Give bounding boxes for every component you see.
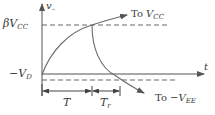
v-axis-label: v– xyxy=(46,1,55,11)
tr-interval-label: Tr xyxy=(100,97,111,108)
t-axis-label: t xyxy=(204,62,208,72)
discharge-curve xyxy=(92,25,144,93)
to-vcc-annotation: To VCC xyxy=(131,9,164,19)
timing-diagram: v– βVCC −VD To VCC t To −VEE T Tr xyxy=(0,0,215,115)
to-vee-annotation: To −VEE xyxy=(155,93,196,103)
charging-curve xyxy=(42,15,127,75)
beta-vcc-label: βVCC xyxy=(3,18,28,29)
t-interval-label: T xyxy=(63,97,70,108)
neg-vd-label: −VD xyxy=(9,68,32,79)
